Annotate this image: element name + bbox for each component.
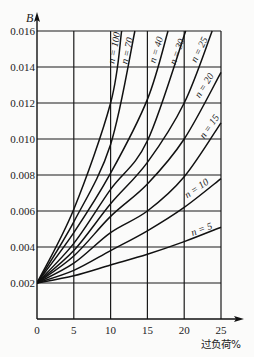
grid-lines [37, 31, 221, 319]
y-tick-label: 0.004 [10, 241, 35, 253]
x-tick-label: 0 [34, 324, 40, 336]
x-axis-title: 过负荷% [201, 338, 241, 350]
y-tick-label: 0.002 [10, 277, 35, 289]
y-tick-label: 0.008 [10, 169, 35, 181]
y-tick-label: 0.012 [10, 97, 35, 109]
y-axis-title: B [26, 11, 34, 25]
y-tick-label: 0.010 [10, 133, 35, 145]
x-tick-label: 20 [179, 324, 191, 336]
x-tick-label: 10 [105, 324, 117, 336]
y-tick-label: 0.006 [10, 205, 35, 217]
curve-label: n = 25 [188, 35, 210, 64]
curve-label: n = 10 [182, 176, 210, 200]
axis-labels: B 过负荷% [26, 11, 241, 350]
x-tick-label: 5 [71, 324, 77, 336]
chart-canvas: 0.0020.0040.0060.0080.0100.0120.0140.016… [0, 0, 254, 357]
x-tick-label: 15 [142, 324, 154, 336]
curve-n30 [37, 31, 186, 283]
curves [37, 31, 221, 283]
x-tick-label: 25 [216, 324, 228, 336]
curve-labels: n = 5n = 10n = 15n = 20n = 25n = 30n = 4… [105, 31, 221, 238]
y-tick-label: 0.016 [10, 25, 35, 37]
curve-n20 [37, 72, 221, 283]
overload-chart: 0.0020.0040.0060.0080.0100.0120.0140.016… [0, 0, 254, 357]
curve-label: n = 15 [197, 112, 221, 140]
curve-n25 [37, 31, 212, 283]
y-tick-label: 0.014 [10, 61, 35, 73]
